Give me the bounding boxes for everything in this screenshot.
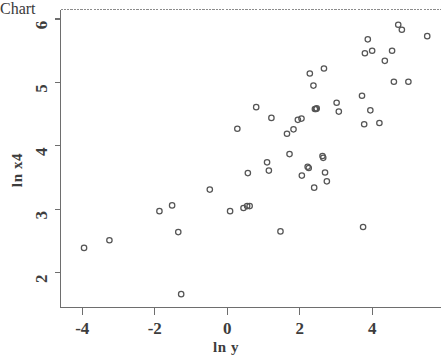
data-point bbox=[278, 229, 283, 234]
data-point bbox=[391, 79, 396, 84]
data-point bbox=[322, 170, 327, 175]
data-point bbox=[178, 291, 183, 296]
data-point bbox=[365, 37, 370, 42]
x-tick-label: -2 bbox=[148, 319, 162, 338]
data-point bbox=[307, 71, 312, 76]
data-point bbox=[235, 126, 240, 131]
data-point bbox=[169, 203, 174, 208]
data-point bbox=[399, 27, 404, 32]
y-tick-label: 2 bbox=[33, 274, 52, 283]
data-point bbox=[336, 109, 341, 114]
data-point bbox=[227, 208, 232, 213]
data-point bbox=[311, 83, 316, 88]
y-tick-label: 5 bbox=[33, 84, 52, 93]
y-axis-title: ln x4 bbox=[9, 153, 25, 187]
data-point bbox=[266, 168, 271, 173]
y-tick-label: 6 bbox=[33, 21, 52, 30]
data-point bbox=[361, 122, 366, 127]
data-point bbox=[389, 48, 394, 53]
data-point bbox=[368, 108, 373, 113]
data-point bbox=[359, 93, 364, 98]
scatter-plot-figure: 23456 -4-2024 ln x4 ln y bbox=[0, 0, 441, 360]
x-axis-title: ln y bbox=[213, 339, 239, 355]
data-point bbox=[269, 115, 274, 120]
data-point bbox=[362, 51, 367, 56]
data-point bbox=[291, 127, 296, 132]
data-point bbox=[284, 131, 289, 136]
y-tick-label: 3 bbox=[33, 211, 52, 220]
data-point bbox=[382, 58, 387, 63]
data-point bbox=[107, 238, 112, 243]
data-point bbox=[176, 229, 181, 234]
data-point bbox=[207, 187, 212, 192]
x-tick-label: -4 bbox=[75, 319, 90, 338]
data-point bbox=[253, 104, 258, 109]
plot-frame bbox=[61, 10, 441, 308]
y-axis-ticks: 23456 bbox=[33, 19, 61, 283]
data-point bbox=[425, 33, 430, 38]
data-point bbox=[324, 179, 329, 184]
data-points-layer bbox=[81, 22, 430, 297]
data-point bbox=[311, 185, 316, 190]
data-point bbox=[299, 173, 304, 178]
data-point bbox=[157, 208, 162, 213]
data-point bbox=[334, 100, 339, 105]
data-point bbox=[369, 48, 374, 53]
x-axis-ticks: -4-2024 bbox=[75, 308, 377, 338]
data-point bbox=[264, 160, 269, 165]
data-point bbox=[321, 66, 326, 71]
data-point bbox=[81, 245, 86, 250]
data-point bbox=[287, 151, 292, 156]
y-tick-label: 4 bbox=[33, 147, 52, 156]
x-tick-label: 4 bbox=[368, 319, 377, 338]
x-tick-label: 0 bbox=[223, 319, 232, 338]
data-point bbox=[360, 224, 365, 229]
data-point bbox=[396, 22, 401, 27]
x-tick-label: 2 bbox=[295, 319, 304, 338]
data-point bbox=[377, 120, 382, 125]
plot-canvas: 23456 -4-2024 ln x4 ln y bbox=[0, 0, 441, 360]
data-point bbox=[406, 79, 411, 84]
data-point bbox=[245, 170, 250, 175]
